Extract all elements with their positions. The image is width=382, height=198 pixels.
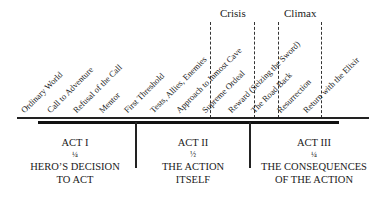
- timeline-thick-line: [38, 121, 339, 124]
- act-2-title: ACT II: [140, 136, 246, 149]
- act-1-line2: TO ACT: [20, 173, 130, 186]
- climax-label: Climax: [284, 7, 316, 19]
- act-3-fraction: ¼: [254, 149, 374, 160]
- act-3-title: ACT III: [254, 136, 374, 149]
- act-2-fraction: ½: [140, 149, 246, 160]
- act-1-line1: HERO’S DECISION: [20, 160, 130, 173]
- stage-mentor: Mentor: [97, 90, 122, 115]
- act-2-line1: THE ACTION: [140, 160, 246, 173]
- act-divider-1: [135, 122, 137, 168]
- act-2: ACT II ½ THE ACTION ITSELF: [140, 136, 246, 186]
- act-1-fraction: ¼: [20, 149, 130, 160]
- act-3-line2: OF THE ACTION: [254, 173, 374, 186]
- timeline-thin-line: [17, 117, 369, 119]
- act-2-line2: ITSELF: [140, 173, 246, 186]
- act-divider-2: [249, 122, 251, 168]
- crisis-label: Crisis: [220, 7, 246, 19]
- act-3-line1: THE CONSEQUENCES: [254, 160, 374, 173]
- act-1-title: ACT I: [20, 136, 130, 149]
- climax-right-dashed-line: [321, 22, 322, 118]
- act-1: ACT I ¼ HERO’S DECISION TO ACT: [20, 136, 130, 186]
- act-3: ACT III ¼ THE CONSEQUENCES OF THE ACTION: [254, 136, 374, 186]
